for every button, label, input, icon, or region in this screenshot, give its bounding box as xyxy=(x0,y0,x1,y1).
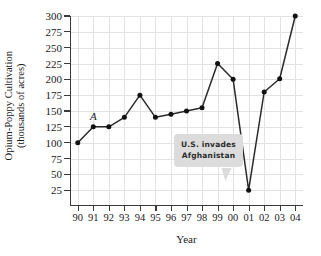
x-axis-tick xyxy=(93,206,94,211)
callout-line1: U.S. invades xyxy=(181,139,236,150)
callout-line2: Afghanistan xyxy=(181,150,236,161)
data-point xyxy=(75,140,80,145)
data-point xyxy=(293,14,298,19)
data-point xyxy=(262,90,267,95)
y-axis-title-line2: (thousands of acres) xyxy=(15,51,27,160)
x-axis-tick xyxy=(264,206,265,211)
x-axis-tick xyxy=(202,206,203,211)
data-point xyxy=(137,93,142,98)
y-axis-tick-label: 50 xyxy=(51,169,62,180)
data-point xyxy=(231,77,236,82)
y-axis-tick-label: 300 xyxy=(46,11,63,22)
x-axis-tick-label: 04 xyxy=(290,213,301,224)
plot-area: 255075100125150175200225250275300 909192… xyxy=(70,16,303,206)
x-axis-tick-label: 97 xyxy=(181,213,192,224)
data-point xyxy=(168,112,173,117)
data-point xyxy=(153,115,158,120)
x-axis-tick-label: 90 xyxy=(73,213,84,224)
y-axis-tick-label: 125 xyxy=(46,121,63,132)
x-axis-tick-label: 93 xyxy=(119,213,130,224)
x-axis-tick xyxy=(249,206,250,211)
data-point xyxy=(246,188,251,193)
x-axis-tick-label: 02 xyxy=(259,213,270,224)
opium-poppy-cultivation-chart: Opium-Poppy Cultivation (thousands of ac… xyxy=(0,0,321,256)
point-label-a: A xyxy=(90,111,97,122)
data-point xyxy=(277,76,282,81)
data-point xyxy=(91,124,96,129)
x-axis-tick xyxy=(155,206,156,211)
data-series xyxy=(70,16,303,206)
x-axis-tick-label: 96 xyxy=(166,213,177,224)
x-axis-tick xyxy=(233,206,234,211)
callout-us-invades-afghanistan: U.S. invadesAfghanistan xyxy=(174,134,243,167)
x-axis-tick-label: 92 xyxy=(104,213,115,224)
y-axis-title-line1: Opium-Poppy Cultivation xyxy=(3,51,15,160)
y-axis-tick-label: 75 xyxy=(51,153,62,164)
y-axis-tick-label: 275 xyxy=(46,26,63,37)
data-point xyxy=(122,115,127,120)
x-axis-tick-label: 01 xyxy=(243,213,254,224)
x-axis-tick xyxy=(109,206,110,211)
x-axis-tick xyxy=(124,206,125,211)
x-axis-tick xyxy=(187,206,188,211)
y-axis-tick-label: 100 xyxy=(46,137,63,148)
x-axis-tick xyxy=(140,206,141,211)
x-axis-tick xyxy=(280,206,281,211)
data-point xyxy=(184,109,189,114)
data-point xyxy=(215,61,220,66)
x-axis-tick-label: 03 xyxy=(274,213,285,224)
y-axis-tick-label: 200 xyxy=(46,74,63,85)
data-point xyxy=(200,105,205,110)
x-axis-tick-label: 95 xyxy=(150,213,161,224)
y-axis-tick-label: 250 xyxy=(46,42,63,53)
x-axis-tick-label: 98 xyxy=(197,213,208,224)
y-axis-tick-label: 225 xyxy=(46,58,63,69)
y-axis-tick-label: 25 xyxy=(51,185,62,196)
x-axis-tick xyxy=(78,206,79,211)
x-axis-tick-label: 91 xyxy=(88,213,99,224)
y-axis-tick-label: 175 xyxy=(46,90,63,101)
y-axis-tick-label: 150 xyxy=(46,106,63,117)
x-axis-tick-label: 00 xyxy=(228,213,239,224)
x-axis-tick xyxy=(171,206,172,211)
x-axis-tick-label: 99 xyxy=(212,213,223,224)
x-axis-tick-label: 94 xyxy=(135,213,146,224)
x-axis-tick xyxy=(295,206,296,211)
data-point xyxy=(106,124,111,129)
x-axis-tick xyxy=(218,206,219,211)
x-axis-title: Year xyxy=(70,233,303,245)
y-axis-title: Opium-Poppy Cultivation (thousands of ac… xyxy=(0,0,30,212)
